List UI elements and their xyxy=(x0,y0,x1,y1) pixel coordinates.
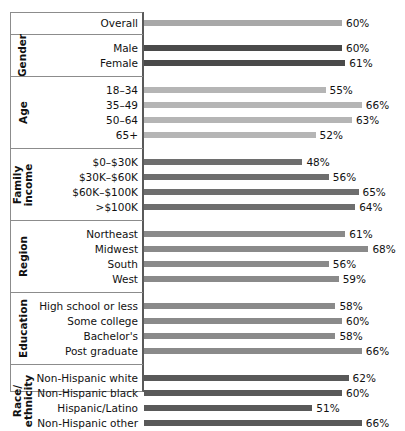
bar-container: 60% xyxy=(144,314,405,329)
chart-row: Northeast61% xyxy=(0,227,405,242)
bar xyxy=(144,189,359,195)
chart-row: Some college60% xyxy=(0,314,405,329)
bar-value-label: 56% xyxy=(333,257,356,272)
category-label: High school or less xyxy=(32,299,138,314)
chart-row: 35–4966% xyxy=(0,98,405,113)
bar-value-label: 68% xyxy=(372,242,395,257)
category-label: Bachelor's xyxy=(32,329,138,344)
bar xyxy=(144,303,335,309)
category-label: Female xyxy=(32,56,138,71)
category-label: $0–$30K xyxy=(32,155,138,170)
bar xyxy=(144,132,316,138)
category-label: South xyxy=(32,257,138,272)
group-separator xyxy=(10,220,143,221)
chart-row: $30K–$60K56% xyxy=(0,170,405,185)
bar-container: 65% xyxy=(144,185,405,200)
bar-value-label: 63% xyxy=(356,113,379,128)
category-label: $60K–$100K xyxy=(32,185,138,200)
bar xyxy=(144,45,342,51)
bar-value-label: 60% xyxy=(346,16,369,31)
bar-container: 58% xyxy=(144,299,405,314)
chart-row: 50–6463% xyxy=(0,113,405,128)
chart-row: Non-Hispanic other66% xyxy=(0,416,405,431)
bar xyxy=(144,390,342,396)
bar-container: 63% xyxy=(144,113,405,128)
bar-value-label: 60% xyxy=(346,41,369,56)
bar-value-label: 66% xyxy=(366,98,389,113)
bar-value-label: 60% xyxy=(346,386,369,401)
category-label: 18–34 xyxy=(32,83,138,98)
bar-container: 52% xyxy=(144,128,405,143)
bar-value-label: 64% xyxy=(359,200,382,215)
bar-container: 60% xyxy=(144,41,405,56)
bar xyxy=(144,420,362,426)
category-label: Northeast xyxy=(32,227,138,242)
category-label: Some college xyxy=(32,314,138,329)
bar-value-label: 58% xyxy=(339,329,362,344)
bar xyxy=(144,375,349,381)
category-label: Non-Hispanic black xyxy=(32,386,138,401)
bar-container: 62% xyxy=(144,371,405,386)
category-label: 65+ xyxy=(32,128,138,143)
bar-value-label: 66% xyxy=(366,416,389,431)
category-label: Post graduate xyxy=(32,344,138,359)
bar xyxy=(144,117,352,123)
bar-container: 68% xyxy=(144,242,405,257)
bar-value-label: 62% xyxy=(353,371,376,386)
bar xyxy=(144,60,345,66)
bar xyxy=(144,348,362,354)
bar-value-label: 61% xyxy=(349,56,372,71)
bar-container: 59% xyxy=(144,272,405,287)
bar xyxy=(144,261,329,267)
bar xyxy=(144,405,312,411)
chart-row: Bachelor's58% xyxy=(0,329,405,344)
chart-row: Overall60% xyxy=(0,16,405,31)
bar-container: 66% xyxy=(144,98,405,113)
category-label: 50–64 xyxy=(32,113,138,128)
category-label: Non-Hispanic white xyxy=(32,371,138,386)
group-separator xyxy=(10,364,143,365)
category-label: $30K–$60K xyxy=(32,170,138,185)
bar xyxy=(144,159,302,165)
bar xyxy=(144,318,342,324)
bar-value-label: 60% xyxy=(346,314,369,329)
bar xyxy=(144,20,342,26)
bar-container: 48% xyxy=(144,155,405,170)
category-label: West xyxy=(32,272,138,287)
bar-value-label: 61% xyxy=(349,227,372,242)
category-label: >$100K xyxy=(32,200,138,215)
chart-row: Hispanic/Latino51% xyxy=(0,401,405,416)
bar-container: 64% xyxy=(144,200,405,215)
chart-row: Male60% xyxy=(0,41,405,56)
bar xyxy=(144,204,355,210)
category-label: Male xyxy=(32,41,138,56)
chart-row: 65+52% xyxy=(0,128,405,143)
chart-row: 18–3455% xyxy=(0,83,405,98)
chart-row: $60K–$100K65% xyxy=(0,185,405,200)
chart-row: Non-Hispanic black60% xyxy=(0,386,405,401)
chart-row: Female61% xyxy=(0,56,405,71)
bar xyxy=(144,333,335,339)
chart-row: South56% xyxy=(0,257,405,272)
chart-row: Midwest68% xyxy=(0,242,405,257)
bar-container: 51% xyxy=(144,401,405,416)
bar xyxy=(144,246,368,252)
chart-row: Non-Hispanic white62% xyxy=(0,371,405,386)
bar-value-label: 59% xyxy=(343,272,366,287)
chart-row: >$100K64% xyxy=(0,200,405,215)
category-label: Overall xyxy=(32,16,138,31)
category-label: Midwest xyxy=(32,242,138,257)
group-separator xyxy=(10,76,143,77)
bar xyxy=(144,102,362,108)
bar xyxy=(144,231,345,237)
bar-container: 66% xyxy=(144,416,405,431)
category-label: 35–49 xyxy=(32,98,138,113)
bar-value-label: 48% xyxy=(306,155,329,170)
bar-value-label: 56% xyxy=(333,170,356,185)
bar xyxy=(144,87,326,93)
category-label: Hispanic/Latino xyxy=(32,401,138,416)
bar-container: 61% xyxy=(144,56,405,71)
bar-container: 60% xyxy=(144,16,405,31)
group-separator xyxy=(10,34,143,35)
